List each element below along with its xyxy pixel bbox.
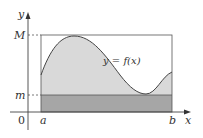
y-axis-label: y (17, 8, 25, 21)
b-label: b (169, 114, 176, 127)
x-axis-label: x (185, 114, 192, 127)
min-label: m (15, 89, 25, 102)
a-label: a (40, 114, 47, 127)
curve-label: y = f(x) (102, 55, 141, 66)
max-label: M (13, 29, 26, 42)
min-rectangle (41, 95, 172, 112)
origin-label: 0 (18, 114, 25, 127)
y-axis-arrow-icon (26, 12, 31, 19)
diagram-canvas: y M m 0 a b x y = f(x) (0, 0, 203, 138)
